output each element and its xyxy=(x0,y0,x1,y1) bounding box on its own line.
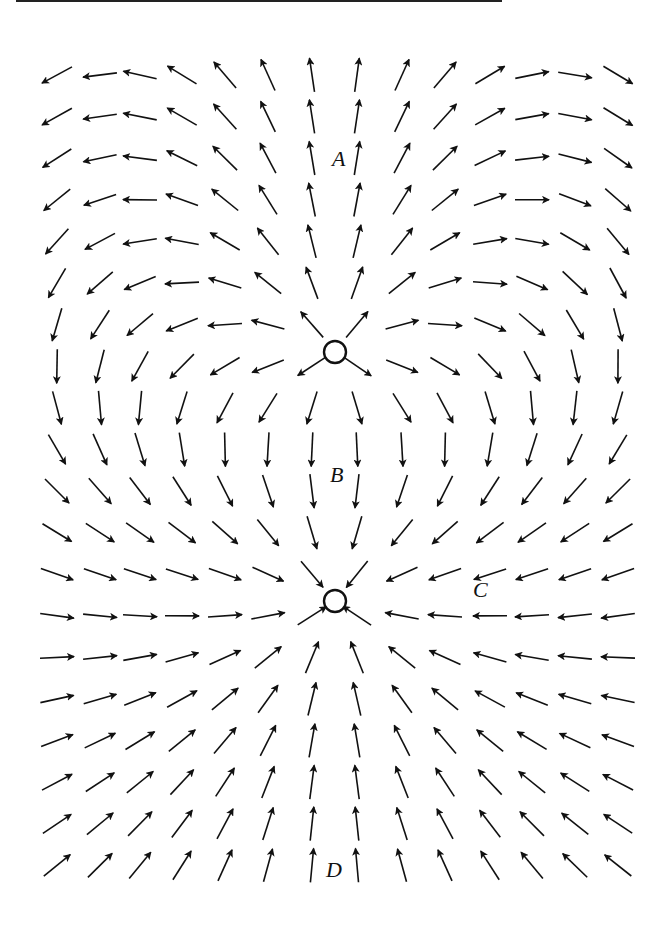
field-arrow xyxy=(473,282,507,284)
field-arrow xyxy=(614,308,623,341)
field-arrow xyxy=(430,650,461,664)
field-arrow xyxy=(169,730,195,752)
field-arrow xyxy=(520,812,544,836)
field-arrow xyxy=(216,768,235,796)
field-arrow xyxy=(356,849,359,883)
field-arrow xyxy=(167,691,197,707)
field-arrow xyxy=(564,478,587,503)
field-arrow xyxy=(138,391,141,425)
field-arrow xyxy=(568,434,582,465)
field-arrow xyxy=(601,614,635,619)
field-arrow xyxy=(165,238,198,244)
field-arrow xyxy=(521,852,543,878)
field-arrow xyxy=(477,730,503,751)
upper-charge xyxy=(324,341,346,363)
field-arrow xyxy=(603,774,633,790)
field-arrow xyxy=(480,810,501,837)
field-arrow xyxy=(132,351,148,381)
label-d: D xyxy=(325,857,342,882)
field-arrow xyxy=(355,765,359,799)
field-arrow xyxy=(434,104,457,129)
field-arrow xyxy=(353,682,361,715)
field-arrow xyxy=(84,569,116,580)
field-arrow xyxy=(603,66,632,83)
field-arrow xyxy=(401,432,403,466)
field-arrow xyxy=(210,233,239,250)
field-diagram: ABCD xyxy=(0,0,657,928)
field-arrow xyxy=(397,808,407,840)
field-arrow xyxy=(48,268,65,297)
point-labels: ABCD xyxy=(325,146,488,882)
field-arrow xyxy=(255,272,281,293)
field-arrow xyxy=(353,225,361,258)
field-arrow xyxy=(573,391,577,425)
field-arrow xyxy=(259,393,277,422)
field-arrow xyxy=(41,569,73,580)
field-arrow xyxy=(89,478,111,504)
field-arrow xyxy=(173,477,191,506)
field-arrow xyxy=(42,108,72,125)
field-arrow xyxy=(387,567,418,581)
field-arrow xyxy=(389,272,415,293)
field-arrow xyxy=(257,519,278,545)
field-arrow xyxy=(352,516,362,549)
field-arrow xyxy=(126,732,155,750)
field-arrow xyxy=(475,108,505,125)
field-arrow xyxy=(434,62,456,88)
field-arrow xyxy=(124,277,155,290)
field-arrow xyxy=(85,733,116,748)
field-arrow xyxy=(123,615,157,617)
field-arrow xyxy=(259,185,277,214)
field-arrow xyxy=(481,851,499,880)
field-arrow xyxy=(214,62,236,88)
field-arrow xyxy=(437,476,452,506)
field-arrow xyxy=(87,272,113,294)
field-arrow xyxy=(209,278,242,288)
field-arrow xyxy=(433,146,457,170)
field-arrow xyxy=(309,100,314,134)
field-arrow xyxy=(93,434,107,465)
field-arrow xyxy=(167,151,197,166)
field-arrow xyxy=(524,351,540,381)
field-arrow xyxy=(44,855,70,877)
field-arrow xyxy=(166,318,198,331)
field-arrow xyxy=(558,72,592,78)
field-arrow xyxy=(474,318,505,331)
field-arrow xyxy=(261,60,275,91)
field-arrow xyxy=(83,656,117,660)
field-arrow xyxy=(170,770,193,795)
field-arrow xyxy=(298,357,326,376)
field-arrow xyxy=(613,392,622,425)
field-arrow xyxy=(516,693,548,705)
field-arrow xyxy=(307,516,317,549)
field-arrow xyxy=(559,194,591,206)
field-arrow xyxy=(354,724,360,758)
field-arrow xyxy=(559,154,592,162)
field-arrow xyxy=(43,814,71,833)
field-arrow xyxy=(474,653,507,662)
field-arrow xyxy=(135,433,145,466)
field-arrow xyxy=(252,320,285,329)
field-arrow xyxy=(212,688,238,710)
field-arrow xyxy=(255,647,281,668)
field-arrow xyxy=(436,768,455,796)
field-arrow xyxy=(560,733,591,747)
field-arrow xyxy=(308,225,316,258)
field-arrow xyxy=(264,849,273,882)
field-arrow xyxy=(44,189,70,210)
field-arrow xyxy=(309,183,316,216)
field-arrow xyxy=(519,314,545,336)
field-arrow xyxy=(165,282,199,284)
field-arrow xyxy=(355,100,360,134)
field-arrow xyxy=(311,432,313,466)
field-arrow xyxy=(209,569,241,580)
field-arrow xyxy=(571,350,579,383)
field-arrow xyxy=(558,656,592,659)
field-arrow xyxy=(123,654,156,660)
field-arrow xyxy=(262,766,274,798)
field-arrow xyxy=(130,478,151,505)
field-arrow xyxy=(310,849,313,883)
field-arrow xyxy=(604,524,633,542)
field-arrow xyxy=(515,114,548,120)
field-arrow xyxy=(438,850,452,881)
